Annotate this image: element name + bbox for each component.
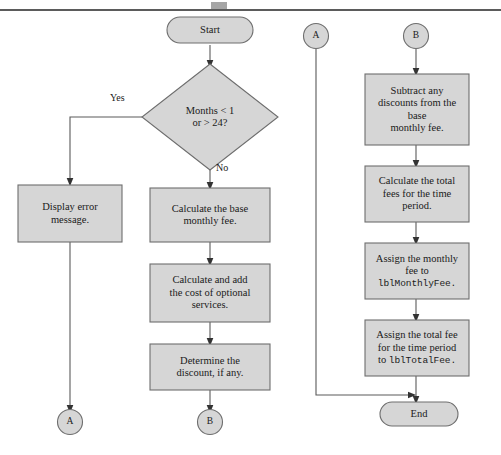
node-basefee-shape[interactable] [150,188,270,242]
node-subtract-shape[interactable] [365,74,469,145]
node-connector-b-top-shape[interactable] [404,24,429,49]
node-assignmonthly-shape[interactable] [365,243,469,299]
node-decision-shape[interactable] [142,64,278,170]
node-totalfees-shape[interactable] [365,166,469,222]
flowchart-page: Start Months < 1 or > 24? Display error … [0,0,501,455]
node-error-shape[interactable] [18,185,122,242]
node-connector-a-top-shape[interactable] [304,24,329,49]
node-optional-shape[interactable] [150,264,270,322]
node-connector-a-bottom-shape[interactable] [58,410,83,435]
node-start-shape[interactable] [167,17,253,43]
flowchart-canvas [0,0,501,455]
node-assigntotal-shape[interactable] [365,320,469,376]
node-connector-b-bottom-shape[interactable] [198,410,223,435]
edge-decision-to-error [70,117,151,182]
node-discount-shape[interactable] [150,344,270,390]
node-end-shape[interactable] [380,402,458,426]
